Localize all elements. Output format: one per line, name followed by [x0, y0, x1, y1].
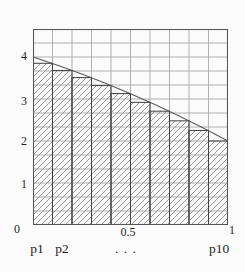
riemann-bar-p3 [72, 78, 92, 225]
y-axis-label-2: 2 [7, 135, 27, 147]
riemann-bar-p7 [150, 111, 170, 225]
partition-label-p10: p10 [203, 242, 235, 256]
plot-canvas [33, 29, 228, 225]
riemann-bar-p6 [131, 102, 151, 225]
riemann-bar-p4 [92, 86, 112, 225]
riemann-bar-p10 [209, 141, 229, 225]
riemann-sum-figure: 4 3 2 1 0 0.5 1 p1 p2 . . . p10 [0, 0, 245, 272]
partition-label-p1: p1 [25, 242, 49, 256]
partition-label-ellipsis: . . . [110, 242, 142, 256]
riemann-bar-p8 [170, 121, 190, 225]
y-axis-label-4: 4 [7, 50, 27, 62]
partition-label-p2: p2 [50, 242, 74, 256]
riemann-bar-p9 [189, 131, 209, 225]
origin-label: 0 [11, 223, 23, 235]
x-axis-label-1: 1 [226, 224, 238, 236]
riemann-bar-p2 [53, 70, 73, 225]
y-axis-label-1: 1 [7, 178, 27, 190]
riemann-bar-p5 [111, 94, 131, 225]
x-axis-label-0-5: 0.5 [115, 226, 141, 238]
riemann-bar-p1 [33, 63, 53, 225]
y-axis-label-3: 3 [7, 95, 27, 107]
